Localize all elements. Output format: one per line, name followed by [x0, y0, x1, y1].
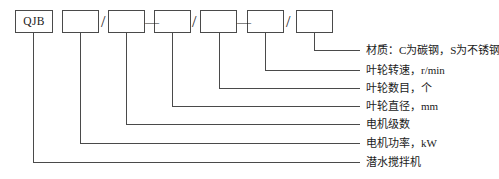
box-7: [296, 10, 333, 33]
leader-product-name-label: 潜水搅拌机: [366, 157, 421, 168]
leader-impeller-speed-label: 叶轮转速，r/min: [366, 65, 445, 76]
sep-5: /: [286, 14, 290, 30]
leader-impeller-diam-label: 叶轮直径，mm: [366, 101, 438, 112]
sep-2: —: [145, 16, 159, 30]
leader-impeller-speed-line: [265, 33, 360, 70]
model-designation-diagram: QJB /—/—/ 材质：C为碳钢，S为不锈钢叶轮转速，r/min叶轮数目，个叶…: [0, 0, 499, 179]
leader-motor-poles-label: 电机级数: [366, 119, 410, 130]
box-prefix: QJB: [15, 10, 53, 33]
box-6: [247, 10, 284, 33]
leader-motor-power-label: 电机功率，kW: [366, 138, 437, 149]
leader-impeller-count-line: [219, 33, 360, 88]
box-4: [154, 10, 191, 33]
box-5: [200, 10, 237, 33]
leader-motor-poles-line: [126, 33, 360, 124]
leader-impeller-count-label: 叶轮数目，个: [366, 83, 432, 94]
leader-material-line: [314, 33, 360, 50]
sep-1: /: [101, 14, 105, 30]
leader-material-label: 材质：C为碳钢，S为不锈钢: [366, 45, 499, 56]
box-2: [62, 10, 99, 33]
box-3: [108, 10, 145, 33]
sep-3: /: [192, 14, 196, 30]
sep-4: —: [237, 16, 251, 30]
